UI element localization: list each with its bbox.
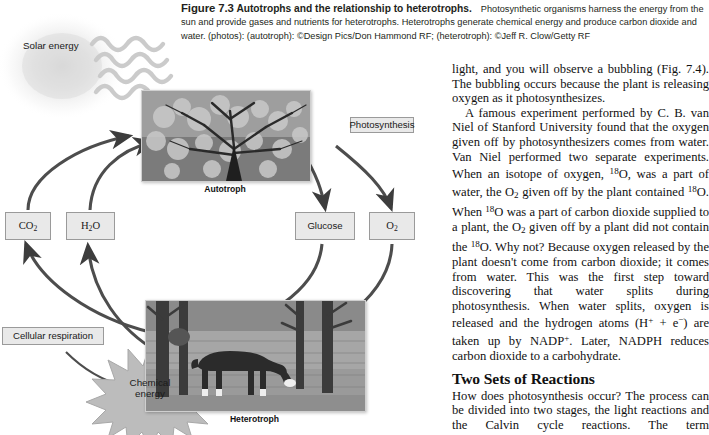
photosynthesis-box: Photosynthesis — [350, 117, 414, 133]
solar-energy-label: Solar energy — [23, 40, 79, 51]
h2o-label: H2O — [81, 220, 100, 233]
paragraph-1: light, and you will observe a bubbling (… — [452, 62, 709, 106]
article-column: light, and you will observe a bubbling (… — [452, 62, 709, 435]
o2-label: O2 — [386, 220, 397, 233]
co2-box: CO2 — [5, 212, 51, 240]
co2-label: CO2 — [19, 220, 38, 233]
glucose-box: Glucose — [295, 212, 355, 240]
paragraph-2: A famous experiment performed by C. B. v… — [452, 106, 709, 363]
figure-diagram: Solar energy — [0, 0, 452, 435]
autotroph-caption: Autotroph — [141, 184, 309, 194]
textbook-page: Figure 7.3 Autotrophs and the relationsh… — [0, 0, 709, 435]
paragraph-3: How does photosynthesis occur? The proce… — [452, 389, 709, 435]
chemical-energy-label: Chemical energy — [116, 378, 184, 400]
cellular-respiration-box: Cellular respiration — [2, 327, 104, 345]
section-heading: Two Sets of Reactions — [452, 372, 709, 387]
h2o-box: H2O — [66, 212, 115, 240]
heterotroph-caption: Heterotroph — [145, 414, 364, 424]
solar-energy-glow — [0, 12, 126, 120]
autotroph-photo — [141, 90, 311, 182]
o2-box: O2 — [369, 212, 415, 240]
